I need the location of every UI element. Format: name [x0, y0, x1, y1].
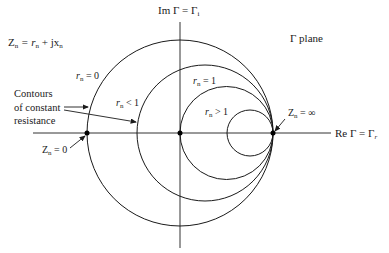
arrow-to-r-less-than-one: [64, 110, 136, 122]
label-zn-zero: Zn = 0: [42, 144, 67, 157]
gamma-plane-label: Γ plane: [290, 32, 323, 44]
real-axis-label: Re Γ = Γr: [335, 127, 377, 141]
arrow-to-zn-infinity: [275, 119, 285, 131]
label-r-less-than-one: rn < 1: [116, 97, 139, 110]
label-zn-infinity: Zn = ∞: [288, 107, 315, 120]
point-zn-infinity: [271, 131, 276, 136]
contours-annotation: Contours of constant resistance: [14, 88, 63, 126]
imaginary-axis-label: Im Γ = Γi: [158, 4, 199, 18]
label-r-one: rn = 1: [193, 75, 216, 88]
smith-chart-diagram: Zn = rn + jxn Im Γ = Γi Re Γ = Γr Γ plan…: [0, 0, 389, 253]
label-r-greater-than-one: rn > 1: [205, 106, 228, 119]
label-r-zero: rn = 0: [76, 70, 99, 83]
arrow-to-zn-zero: [70, 136, 85, 148]
point-origin: [178, 131, 183, 136]
impedance-equation: Zn = rn + jxn: [8, 36, 63, 50]
point-zn-zero: [85, 131, 90, 136]
